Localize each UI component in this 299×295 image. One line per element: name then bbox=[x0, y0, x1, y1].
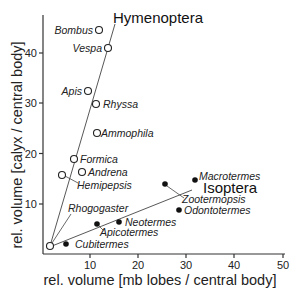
label-bombus: Bombus bbox=[54, 24, 93, 36]
y-tick-labels: 10 20 30 40 bbox=[25, 47, 37, 210]
label-odontotermes: Odontotermes bbox=[184, 204, 251, 216]
label-vespa: Vespa bbox=[73, 42, 103, 54]
x-tick-labels: 10 20 30 40 50 bbox=[84, 259, 289, 271]
label-hemipepsis: Hemipepsis bbox=[77, 179, 133, 191]
x-tick-label: 50 bbox=[277, 259, 289, 271]
point-rhyssa bbox=[93, 101, 100, 108]
point-ammophila bbox=[94, 130, 101, 137]
scatter-chart: 10 20 30 40 10 20 30 40 50 rel. volume [… bbox=[0, 0, 299, 295]
point-bombus bbox=[96, 27, 103, 34]
x-tick-label: 20 bbox=[132, 259, 144, 271]
point-vespa bbox=[105, 45, 112, 52]
group-label-isoptera: Isoptera bbox=[203, 179, 258, 196]
label-rhyssa: Rhyssa bbox=[103, 98, 138, 110]
point-rhogogaster bbox=[47, 243, 54, 250]
label-ammophila: Ammophila bbox=[100, 127, 154, 139]
point-apis bbox=[85, 88, 92, 95]
label-rhogogaster: Rhogogaster bbox=[68, 202, 129, 214]
y-tick-label: 40 bbox=[25, 47, 37, 59]
label-cubitermes: Cubitermes bbox=[75, 238, 129, 250]
label-andrena: Andrena bbox=[87, 166, 128, 178]
point-odontotermes bbox=[176, 207, 182, 213]
point-andrena bbox=[79, 169, 86, 176]
x-tick-label: 30 bbox=[180, 259, 192, 271]
label-neotermes: Neotermes bbox=[125, 216, 177, 228]
point-macrotermes bbox=[192, 177, 198, 183]
point-apicotermes bbox=[94, 221, 100, 227]
label-apis: Apis bbox=[61, 85, 83, 97]
x-tick-label: 10 bbox=[84, 259, 96, 271]
point-zootermopsis bbox=[162, 181, 168, 187]
group-label-hymenoptera: Hymenoptera bbox=[113, 9, 204, 26]
point-formica bbox=[71, 156, 78, 163]
y-axis-title: rel. volume [calyx / central body] bbox=[9, 41, 25, 248]
y-tick-label: 30 bbox=[25, 97, 37, 109]
x-axis-title: rel. volume [mb lobes / central body] bbox=[44, 272, 277, 288]
label-formica: Formica bbox=[80, 153, 118, 165]
y-tick-label: 10 bbox=[25, 198, 37, 210]
point-labels: Bombus Vespa Apis Rhyssa Ammophila Formi… bbox=[54, 24, 261, 250]
x-tick-label: 40 bbox=[228, 259, 240, 271]
point-hemipepsis bbox=[59, 172, 66, 179]
y-tick-label: 20 bbox=[25, 148, 37, 160]
point-cubitermes bbox=[63, 241, 69, 247]
point-neotermes bbox=[116, 219, 122, 225]
